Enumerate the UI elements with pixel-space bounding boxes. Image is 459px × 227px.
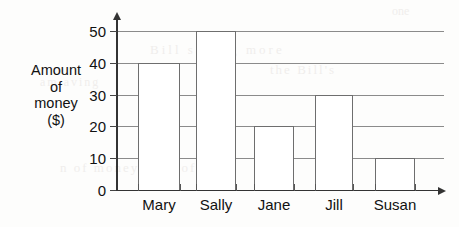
x-tick-3 <box>236 184 237 191</box>
y-tick-label-30: 30 <box>72 88 106 103</box>
y-tick-30 <box>110 95 117 96</box>
x-tick-8 <box>375 184 376 191</box>
bar-jill <box>315 95 353 191</box>
x-tick-label-jane: Jane <box>244 197 304 212</box>
x-tick-5 <box>294 184 295 191</box>
x-axis-arrow-icon <box>438 187 446 195</box>
y-tick-label-20: 20 <box>72 119 106 134</box>
x-tick-label-susan: Susan <box>365 197 425 212</box>
x-tick-2 <box>196 184 197 191</box>
bar-jane <box>254 126 294 191</box>
bar-susan <box>375 158 415 191</box>
bar-mary <box>138 63 180 191</box>
x-tick-4 <box>254 184 255 191</box>
y-tick-label-0: 0 <box>72 183 106 198</box>
y-axis-line <box>116 20 118 191</box>
x-tick-9 <box>415 184 416 191</box>
y-axis-arrow-icon <box>113 12 121 20</box>
y-tick-20 <box>110 126 117 127</box>
x-tick-0 <box>138 184 139 191</box>
y-tick-label-10: 10 <box>72 151 106 166</box>
bar-chart: Amount of money ($) 50 40 30 20 10 <box>0 0 459 227</box>
y-tick-50 <box>110 31 117 32</box>
chart-screenshot: one Bill saving more the Bill's n of mon… <box>0 0 459 227</box>
y-tick-10 <box>110 158 117 159</box>
y-tick-label-50: 50 <box>72 24 106 39</box>
x-tick-7 <box>353 184 354 191</box>
x-tick-label-sally: Sally <box>186 197 246 212</box>
x-tick-label-mary: Mary <box>129 197 189 212</box>
x-axis-line <box>116 190 441 191</box>
x-tick-6 <box>315 184 316 191</box>
y-tick-40 <box>110 63 117 64</box>
bar-sally <box>196 31 236 191</box>
gridline-50 <box>116 31 444 32</box>
y-tick-label-40: 40 <box>72 56 106 71</box>
x-tick-label-jill: Jill <box>304 197 364 212</box>
x-tick-1 <box>180 184 181 191</box>
